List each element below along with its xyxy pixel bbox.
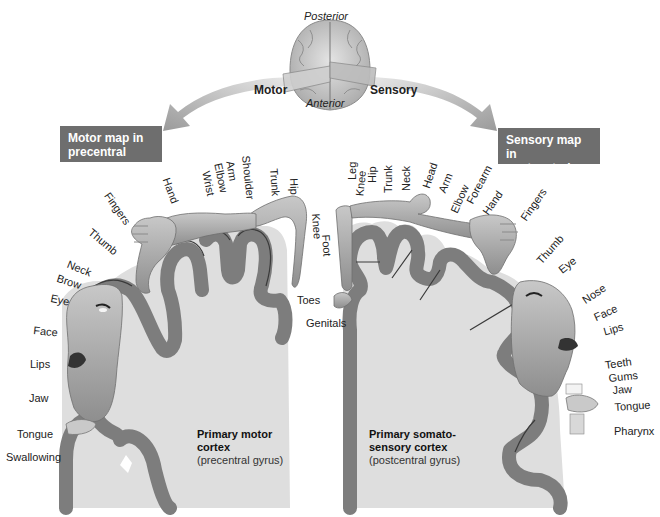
posterior-label: Posterior (304, 10, 348, 22)
homunculus-diagram: Posterior Anterior Motor Sensory Motor m… (0, 0, 660, 517)
sensory-label-jaw: Jaw (612, 383, 632, 396)
motor-cortex-title-1: Primary motor (197, 428, 283, 441)
diagram-artwork (0, 0, 660, 517)
motor-label-face: Face (33, 324, 59, 338)
motor-label-lips: Lips (30, 358, 50, 370)
sensory-cortex-title-2: sensory cortex (369, 441, 460, 454)
sensory-cortex-subtitle: (postcentral gyrus) (369, 454, 460, 467)
sensory-label-trunk: Trunk (382, 165, 394, 193)
sensory-label-pharynx: Pharynx (614, 425, 654, 437)
sensory-label-hip: Hip (366, 166, 378, 183)
sensory-label-neck: Neck (400, 166, 412, 191)
motor-label-toes: Toes (297, 294, 320, 306)
motor-label-foot: Foot (320, 234, 334, 257)
sensory-map-line2: postcentral gyrus (506, 161, 592, 189)
motor-cortex-subtitle: (precentral gyrus) (197, 454, 283, 467)
motor-map-box: Motor map in precentral gyrus (60, 126, 162, 162)
anterior-label: Anterior (306, 97, 345, 109)
sensory-heading: Sensory (370, 84, 417, 96)
sensory-label-tongue: Tongue (614, 398, 651, 412)
motor-map-line1: Motor map in (68, 131, 154, 145)
sensory-label-leg: Leg (346, 162, 358, 180)
motor-label-jaw: Jaw (29, 392, 49, 404)
sensory-label-genitals: Genitals (306, 317, 346, 329)
motor-cortex-title-2: cortex (197, 441, 283, 454)
sensory-cortex-title-1: Primary somato- (369, 428, 460, 441)
sensory-map-box: Sensory map in postcentral gyrus (498, 128, 600, 164)
motor-label-tongue: Tongue (17, 428, 53, 440)
sensory-cortex-caption: Primary somato- sensory cortex (postcent… (369, 428, 460, 467)
motor-cortex-caption: Primary motor cortex (precentral gyrus) (197, 428, 283, 467)
motor-label-hip: Hip (288, 178, 301, 195)
motor-map-line2: precentral gyrus (68, 145, 154, 173)
motor-label-swallowing: Swallowing (6, 451, 61, 463)
motor-heading: Motor (254, 84, 287, 96)
motor-label-trunk: Trunk (268, 168, 282, 196)
sensory-map-line1: Sensory map in (506, 133, 592, 161)
